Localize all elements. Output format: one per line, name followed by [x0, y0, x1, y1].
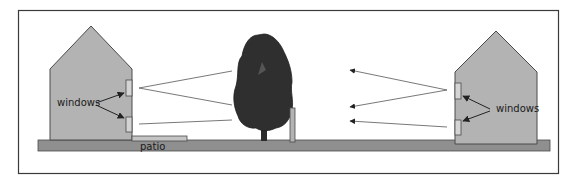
right-lower-window [455, 120, 461, 135]
right-upper-window [455, 83, 461, 99]
patio-label: patio [140, 141, 165, 152]
left-windows-label: windows [57, 97, 100, 108]
right-windows-label: windows [496, 103, 539, 114]
fence-post [290, 108, 295, 142]
privacy-diagram: windows patio windows [0, 0, 578, 182]
left-upper-window [126, 80, 132, 96]
left-lower-window [126, 117, 132, 132]
